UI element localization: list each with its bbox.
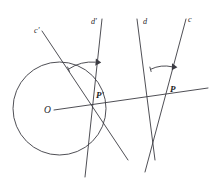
geometry-figure: c' d' d c O P' P [0,0,218,182]
label-line-d-prime: d' [91,17,97,26]
angle-arc-P-tick [150,67,151,71]
label-line-c-prime: c' [34,26,40,35]
angle-arc-P [151,66,173,69]
angle-arc-P-arrowhead [172,63,178,70]
angle-arc-P-prime-arrowhead [95,58,101,65]
label-point-O: O [44,105,51,115]
figure-canvas: c' d' d c O P' P [0,0,218,182]
line-d [137,19,155,160]
label-line-c: c [188,15,192,24]
label-point-P-prime: P' [96,90,104,100]
line-OP-horizontal [54,88,208,110]
label-point-P: P [170,84,176,94]
line-c-prime [42,31,128,160]
line-c [145,19,186,172]
label-line-d: d [143,17,148,26]
